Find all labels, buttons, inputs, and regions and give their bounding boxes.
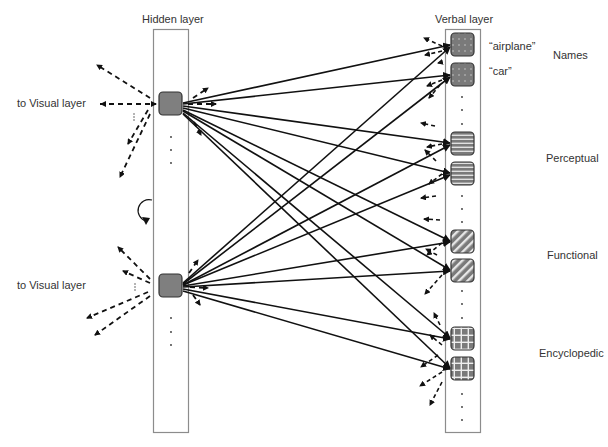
hidden-layer-column [154,30,189,433]
to-visual-layer-label-bottom: to Visual layer [17,279,86,291]
verbal-unit-functional-1 [451,230,474,253]
to-visual-layer-label-top: to Visual layer [17,97,86,109]
unit-label-car: “car” [489,65,512,77]
hidden-unit-bottom [159,274,182,297]
circular-arrow-icon [138,200,152,225]
network-diagram [0,0,608,447]
group-label-names: Names [553,49,588,61]
verbal-unit-car [451,63,474,86]
verbal-unit-encyclopedic-2 [451,357,474,380]
solid-connections [183,45,450,369]
verbal-unit-airplane [451,33,474,56]
hidden-unit-top [159,92,182,115]
group-label-functional: Functional [547,249,598,261]
verbal-layer-title: Verbal layer [435,13,493,25]
unit-label-airplane: “airplane” [489,40,535,52]
verbal-unit-perceptual-2 [451,162,474,185]
group-label-perceptual: Perceptual [546,152,599,164]
verbal-unit-perceptual-1 [451,132,474,155]
hidden-layer-title: Hidden layer [142,13,204,25]
verbal-unit-encyclopedic-1 [451,327,474,350]
verbal-unit-functional-2 [451,259,474,282]
group-label-encyclopedic: Encyclopedic [539,347,604,359]
